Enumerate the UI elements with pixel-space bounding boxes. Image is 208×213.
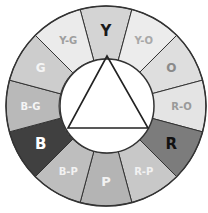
segment-label-b-g: B-G [21, 101, 41, 112]
segment-label-b: B [35, 135, 46, 153]
segment-label-p: P [101, 174, 111, 189]
segment-label-r-p: R-P [134, 166, 153, 177]
segment-label-r-o: R-O [171, 101, 191, 112]
segment-label-y-g: Y-G [58, 35, 77, 46]
segment-label-r: R [166, 135, 178, 153]
segment-label-y: Y [100, 22, 113, 40]
segment-label-y-o: Y-O [134, 35, 153, 46]
color-wheel: YY-OOR-ORR-PPB-PBB-GGY-G [0, 0, 208, 213]
segment-label-o: O [166, 61, 176, 75]
segment-label-g: G [36, 61, 46, 75]
inner-circle [60, 59, 154, 153]
segment-label-b-p: B-P [59, 166, 78, 177]
